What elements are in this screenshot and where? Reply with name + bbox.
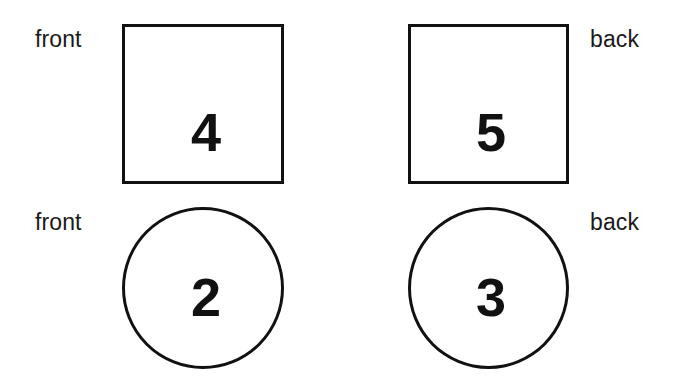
circle-front-value: 2 <box>176 270 236 324</box>
label-front-square: front <box>35 28 82 51</box>
label-front-circle: front <box>35 211 82 234</box>
circle-back-value: 3 <box>461 270 521 324</box>
square-back: 5 <box>408 24 569 184</box>
square-front: 4 <box>122 24 284 184</box>
diagram-canvas: front 4 5 back front 2 3 back <box>0 0 681 386</box>
square-front-value: 4 <box>176 105 236 159</box>
circle-back: 3 <box>408 207 569 369</box>
label-back-circle: back <box>590 211 639 234</box>
square-back-value: 5 <box>461 105 521 159</box>
circle-front: 2 <box>122 207 284 369</box>
label-back-square: back <box>590 28 639 51</box>
